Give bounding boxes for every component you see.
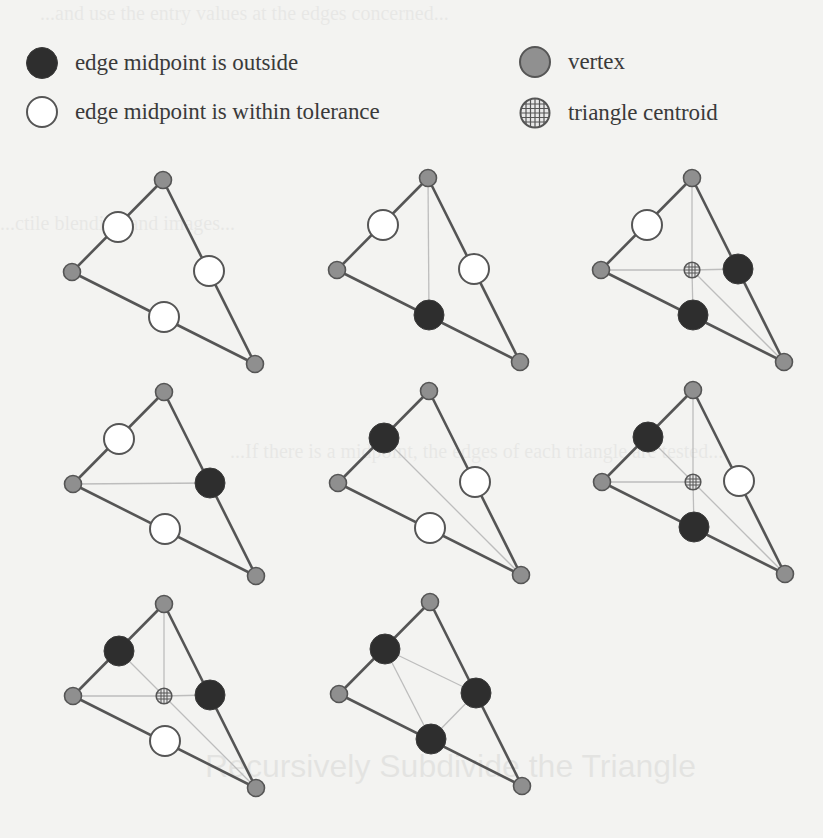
case-split-left-top-right [65,596,265,797]
vertex-icon [422,594,439,611]
midpoint-outside-icon [414,300,444,330]
vertex-icon [514,778,531,795]
case-split-all [331,594,531,795]
vertex-icon [64,264,81,281]
vertex-icon [331,686,348,703]
midpoint-outside-icon [195,468,225,498]
triangle-edges [72,180,255,364]
case-split-left-top [330,383,530,584]
vertex-icon [685,382,702,399]
midpoint-outside-icon [104,636,134,666]
midpoint-within-icon [150,514,180,544]
midpoint-outside-icon [679,512,709,542]
triangle-edges [339,602,522,786]
case-split-right-bottom [593,170,793,371]
midpoint-within-icon [149,302,179,332]
midpoint-within-icon [194,256,224,286]
midpoint-within-icon [724,466,754,496]
vertex-icon [684,170,701,187]
vertex-icon [420,170,437,187]
midpoint-within-icon [459,254,489,284]
case-split-bottom [329,170,529,371]
subdivision-cases-figure [0,0,823,838]
midpoint-within-icon [103,212,133,242]
vertex-icon [330,475,347,492]
vertex-icon [248,568,265,585]
vertex-icon [513,567,530,584]
vertex-icon [156,596,173,613]
vertex-icon [156,384,173,401]
vertex-icon [421,383,438,400]
midpoint-outside-icon [369,423,399,453]
midpoint-within-icon [150,726,180,756]
case-split-left-top-bottom [594,382,794,583]
vertex-icon [512,354,529,371]
midpoint-outside-icon [370,634,400,664]
vertex-icon [776,354,793,371]
subdivision-guide-line [428,178,429,315]
vertex-icon [247,356,264,373]
vertex-icon [777,566,794,583]
midpoint-outside-icon [195,680,225,710]
vertex-icon [594,474,611,491]
case-split-right [65,384,265,585]
vertex-icon [593,262,610,279]
midpoint-within-icon [415,513,445,543]
vertex-icon [65,688,82,705]
case-no-split [64,172,264,373]
vertex-icon [65,476,82,493]
vertex-icon [155,172,172,189]
midpoint-within-icon [632,210,662,240]
midpoint-outside-icon [723,254,753,284]
subdivision-guide-line [73,483,210,484]
midpoint-within-icon [368,210,398,240]
midpoint-outside-icon [416,724,446,754]
vertex-icon [329,262,346,279]
midpoint-outside-icon [678,300,708,330]
subdivision-guide-line [384,438,521,575]
midpoint-within-icon [104,424,134,454]
midpoint-within-icon [460,467,490,497]
vertex-icon [248,780,265,797]
midpoint-outside-icon [633,422,663,452]
midpoint-outside-icon [461,678,491,708]
